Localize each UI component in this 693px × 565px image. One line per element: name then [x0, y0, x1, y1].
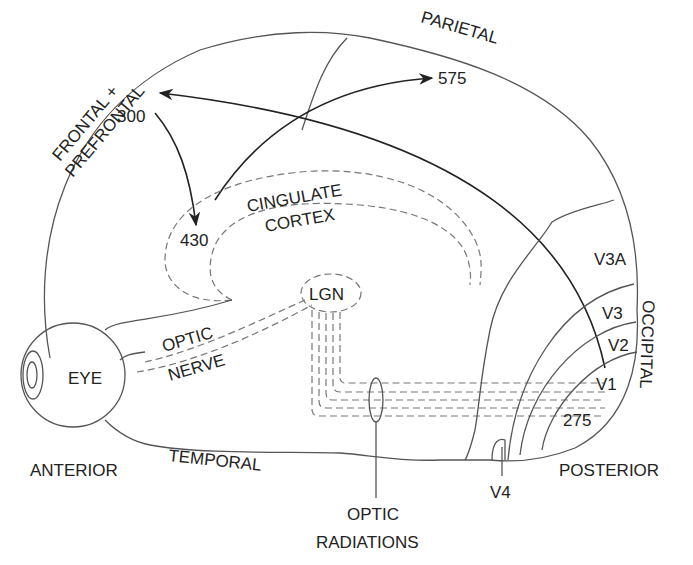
anterior-label: ANTERIOR: [30, 461, 118, 480]
latency-parietal: 575: [438, 69, 466, 88]
eye-label: EYE: [68, 369, 102, 388]
v2-label: V2: [608, 336, 629, 355]
latency-cingulate: 430: [180, 231, 208, 250]
visual-pathway-diagram: FRONTAL + PREFRONTAL PARIETAL OCCIPITAL …: [0, 0, 693, 565]
central-sulcus-line: [302, 38, 347, 130]
v3a-label: V3A: [594, 250, 627, 269]
arrow-v1-to-frontal: [160, 93, 605, 368]
v3-label: V3: [602, 304, 623, 323]
eye-cornea-inner: [27, 362, 37, 388]
posterior-label: POSTERIOR: [559, 461, 659, 480]
lgn-label: LGN: [309, 285, 344, 304]
optic-radiations-label-line1: OPTIC: [347, 505, 399, 524]
optic-nerve-upper: [105, 300, 232, 330]
v4-label: V4: [490, 483, 511, 502]
arrow-frontal-to-cingulate: [155, 113, 196, 225]
occipital-label: OCCIPITAL: [636, 300, 658, 389]
latency-frontal: 300: [117, 107, 145, 126]
latency-v1: 275: [563, 411, 591, 430]
occipital-boundary: [465, 200, 614, 460]
optic-nerve-lower: [120, 352, 145, 360]
parietal-label: PARIETAL: [419, 8, 501, 48]
eye-cornea-outer: [23, 351, 43, 399]
optic-radiations-label-line2: RADIATIONS: [316, 533, 419, 552]
optic-nerve-label-line2: NERVE: [166, 351, 227, 385]
v4-region: [492, 439, 505, 460]
optic-nerve-label-line1: OPTIC: [160, 323, 215, 356]
v1-label: V1: [596, 375, 617, 394]
v2-v1-arc: [542, 352, 637, 450]
temporal-label: TEMPORAL: [168, 446, 263, 475]
